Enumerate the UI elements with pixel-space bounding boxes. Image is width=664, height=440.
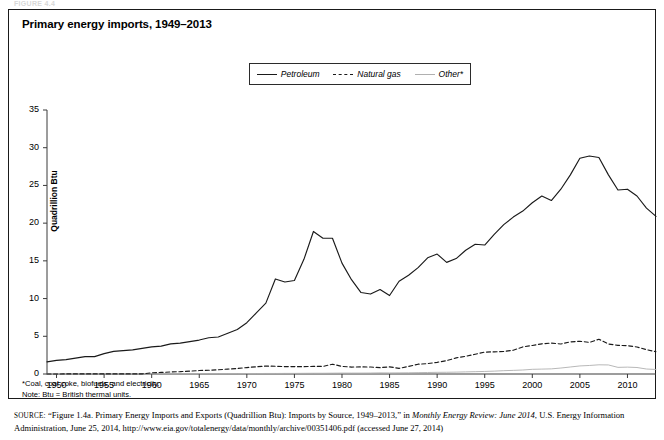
y-tick-label: 30 xyxy=(13,142,39,152)
x-tick-label: 1990 xyxy=(417,380,457,390)
x-tick-label: 2005 xyxy=(560,380,600,390)
y-tick-label: 10 xyxy=(13,293,39,303)
source-publication: Monthly Energy Review: June 2014 xyxy=(412,410,535,420)
x-tick-label: 1970 xyxy=(227,380,267,390)
legend-swatch-light-icon xyxy=(415,71,435,78)
chart-legend: Petroleum Natural gas Other* xyxy=(249,63,471,85)
legend-swatch-dashed-icon xyxy=(333,71,353,78)
figure-page: FIGURE 4.4 Primary energy imports, 1949–… xyxy=(0,0,664,440)
x-tick-label: 1980 xyxy=(322,380,362,390)
legend-swatch-solid-icon xyxy=(257,71,277,78)
figure-source: SOURCE: “Figure 1.4a. Primary Energy Imp… xyxy=(14,410,654,434)
x-tick-label: 1985 xyxy=(370,380,410,390)
y-tick-label: 0 xyxy=(13,368,39,378)
source-text-part1: “Figure 1.4a. Primary Energy Imports and… xyxy=(48,410,412,420)
y-tick-label: 35 xyxy=(13,104,39,114)
y-tick-label: 20 xyxy=(13,217,39,227)
footnote-other: *Coal, coal coke, biofuels, and electric… xyxy=(22,379,159,390)
legend-entry-natural-gas: Natural gas xyxy=(333,69,400,79)
x-tick-label: 1965 xyxy=(179,380,219,390)
figure-title: Primary energy imports, 1949–2013 xyxy=(22,18,212,30)
legend-label-natural-gas: Natural gas xyxy=(357,69,400,79)
legend-label-petroleum: Petroleum xyxy=(281,69,320,79)
source-label: SOURCE: xyxy=(14,412,46,420)
note-btu: Note: Btu = British thermal units. xyxy=(22,390,159,401)
x-tick-label: 2000 xyxy=(512,380,552,390)
y-axis-title: Quadrillion Btu xyxy=(49,141,59,261)
legend-entry-other: Other* xyxy=(415,69,464,79)
x-tick-label: 2010 xyxy=(607,380,647,390)
x-tick-label: 1975 xyxy=(274,380,314,390)
y-tick-label: 5 xyxy=(13,330,39,340)
legend-entry-petroleum: Petroleum xyxy=(257,69,320,79)
figure-notes: *Coal, coal coke, biofuels, and electric… xyxy=(22,379,159,400)
legend-label-other: Other* xyxy=(439,69,464,79)
y-tick-label: 25 xyxy=(13,179,39,189)
y-tick-label: 15 xyxy=(13,255,39,265)
cut-off-figure-header: FIGURE 4.4 xyxy=(14,0,55,7)
x-tick-label: 1995 xyxy=(465,380,505,390)
